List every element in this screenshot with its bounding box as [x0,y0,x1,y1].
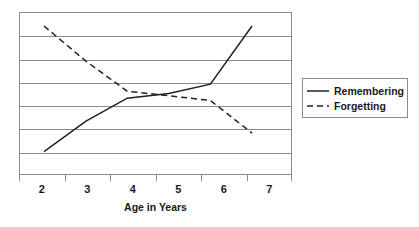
x-tick-1 [65,175,66,181]
x-axis-label-4: 4 [110,182,156,196]
legend-item-remembering: Remembering [306,83,403,98]
legend-item-forgetting: Forgetting [306,98,403,113]
x-tick-5 [247,175,248,181]
x-tick-3 [156,175,157,181]
x-axis-labels: 2 3 4 5 6 7 [19,182,292,198]
dashed-line-icon [306,101,330,111]
legend-label-forgetting: Forgetting [334,100,386,112]
solid-line-icon [306,86,330,96]
x-axis-label-3: 3 [65,182,111,196]
x-tick-2 [110,175,111,181]
x-tick-4 [201,175,202,181]
x-axis-title: Age in Years [19,201,292,213]
line-chart-figure: 2 3 4 5 6 7 Age in Years Remembering For… [0,0,419,227]
series-forgetting-line [44,26,252,133]
legend-label-remembering: Remembering [334,85,404,97]
x-tick-0 [19,175,20,181]
x-axis-label-6: 6 [201,182,247,196]
chart-legend: Remembering Forgetting [302,78,408,118]
series-remembering-line [44,26,252,152]
x-tick-6 [291,175,292,181]
x-axis-ticks [19,175,292,182]
x-axis-label-7: 7 [247,182,293,196]
x-axis-label-2: 2 [19,182,65,196]
x-axis-label-5: 5 [156,182,202,196]
series-layer [19,12,292,175]
